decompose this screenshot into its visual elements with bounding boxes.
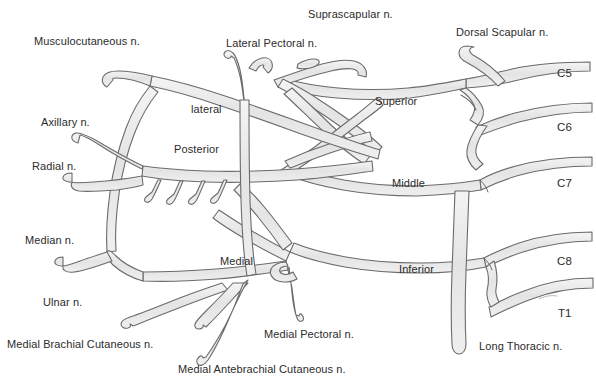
label-medial-pectoral-nerve: Medial Pectoral n.	[264, 329, 354, 340]
label-inferior-trunk: Inferior	[399, 264, 434, 275]
nerve-root-c6	[476, 103, 592, 136]
nerve-root-c8	[484, 232, 592, 267]
nerve-thoracodorsal-branch	[167, 181, 184, 204]
label-medial-cord: Medial	[220, 256, 253, 267]
nerve-lateral-pectoral-hook	[249, 58, 272, 73]
label-root-c6: C6	[557, 122, 572, 134]
nerve-root-t1	[489, 278, 593, 317]
label-root-t1: T1	[558, 308, 572, 320]
nerve-musculocutaneous	[102, 71, 152, 87]
label-middle-trunk: Middle	[392, 178, 425, 189]
nerve-lateral-pectoral-descending	[240, 100, 256, 276]
nerve-median	[55, 252, 112, 272]
label-root-c8: C8	[557, 256, 572, 268]
nerve-posterior-cord-branch-4	[211, 180, 228, 203]
label-radial-nerve: Radial n.	[32, 161, 76, 172]
nerve-long-thoracic	[451, 191, 469, 354]
brachial-plexus-figure: Musculocutaneous n. Axillary n. Radial n…	[0, 0, 596, 383]
nerve-upper-subscapular-branch	[145, 180, 162, 202]
nerve-root-c7	[480, 157, 592, 190]
nerve-t1-to-inferior	[486, 261, 499, 307]
nerve-medial-pectoral-loop	[270, 262, 297, 282]
label-superior-trunk: Superior	[375, 96, 417, 107]
label-medial-antebrachial-cutaneous-nerve: Medial Antebrachial Cutaneous n.	[178, 364, 346, 375]
nerve-medial-root-of-median	[106, 251, 143, 281]
label-ulnar-nerve: Ulnar n.	[43, 297, 82, 308]
label-root-c7: C7	[557, 178, 572, 190]
label-dorsal-scapular-nerve: Dorsal Scapular n.	[456, 27, 548, 38]
nerve-lateral-pectoral	[224, 51, 244, 102]
nerve-c5-c6-junction	[460, 88, 483, 125]
nerve-radial	[63, 173, 143, 191]
label-lateral-pectoral-nerve: Lateral Pectoral n.	[226, 38, 317, 49]
label-lateral-cord: lateral	[191, 104, 222, 115]
label-medial-brachial-cutaneous-nerve: Medial Brachial Cutaneous n.	[7, 339, 154, 350]
label-long-thoracic-nerve: Long Thoracic n.	[479, 341, 562, 352]
nerve-lower-subscapular-branch	[189, 181, 206, 204]
label-root-c5: C5	[557, 68, 572, 80]
label-median-nerve: Median n.	[25, 235, 74, 246]
t1-shading-mark	[539, 296, 557, 299]
plexus-illustration	[0, 0, 596, 383]
label-axillary-nerve: Axillary n.	[41, 117, 90, 128]
label-posterior-cord: Posterior	[174, 144, 219, 155]
label-musculocutaneous-nerve: Musculocutaneous n.	[34, 36, 140, 47]
label-suprascapular-nerve: Suprascapular n.	[308, 9, 393, 20]
nerve-medial-cord	[143, 261, 288, 281]
